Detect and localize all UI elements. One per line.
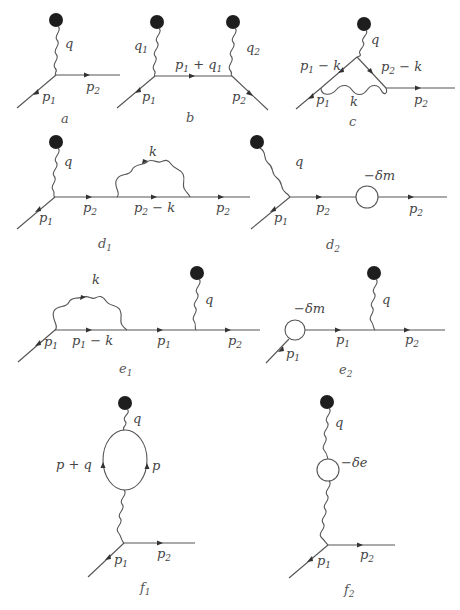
arrow-icon — [218, 195, 224, 200]
arrow-icon — [225, 328, 231, 333]
arrow-icon — [84, 73, 90, 78]
mass-counterterm-circle — [285, 320, 305, 340]
label-p-plus-q: p + q — [56, 457, 92, 472]
label-q: q — [371, 32, 379, 47]
label-q: q — [295, 154, 303, 169]
caption-a: a — [61, 111, 69, 126]
arrow-icon — [151, 195, 157, 200]
label-p1-b: p1 — [336, 332, 350, 349]
label-p2: p2 — [86, 79, 100, 96]
caption-d2: d2 — [326, 237, 340, 254]
arrow-icon — [308, 93, 314, 99]
arrow-icon — [35, 340, 41, 346]
fermion-loop — [103, 430, 147, 490]
arrow-icon — [307, 556, 313, 562]
photon-loop-k — [53, 296, 127, 330]
arrow-icon — [145, 463, 150, 469]
label-p2-minus-k: p2 − k — [381, 59, 422, 76]
label-p1: p1 — [42, 89, 56, 106]
arrow-icon — [33, 89, 39, 95]
diagram-c: q p1 − k p2 − k p1 k p2 c — [296, 17, 455, 129]
label-q2: q2 — [246, 40, 260, 57]
label-q: q — [205, 292, 213, 307]
external-source-blob — [367, 266, 381, 280]
label-p1: p1 — [39, 210, 53, 227]
photon-line-q — [323, 408, 330, 459]
label-p2: p2 — [157, 546, 171, 563]
label-q: q — [382, 292, 390, 307]
label-p2: p2 — [414, 92, 428, 109]
mass-counterterm-circle — [356, 186, 378, 208]
arrow-icon — [415, 86, 421, 91]
label-p1: p1 — [44, 334, 58, 351]
external-source-blob-2 — [226, 15, 240, 29]
label-p2-b: p2 — [216, 200, 230, 217]
label-p1-minus-k: p1 − k — [72, 333, 113, 350]
label-minus-delta-m: −δm — [364, 168, 395, 183]
external-source-blob — [250, 135, 264, 149]
label-p2-minus-k: p2 − k — [134, 200, 175, 217]
caption-e2: e2 — [339, 362, 353, 379]
diagram-e1: k q p1 p1 − k p1 p2 e1 — [18, 266, 260, 378]
diagram-a: q p1 p2 a — [17, 13, 120, 126]
external-source-blob — [190, 266, 204, 280]
external-source-blob — [357, 17, 371, 31]
external-source-blob-1 — [150, 15, 164, 29]
caption-c: c — [349, 114, 357, 129]
photon-line-q — [357, 30, 367, 57]
label-q: q — [133, 411, 141, 426]
label-p1: p1 — [114, 552, 128, 569]
diagram-d1: q k p1 p2 p2 − k p2 d1 — [17, 135, 250, 253]
diagram-e2: −δm q p1 p1 p2 e2 — [266, 266, 445, 379]
label-k: k — [149, 144, 157, 159]
arrow-icon — [101, 462, 106, 468]
feynman-diagram-figure: q p1 p2 a q1 q2 p1 + q1 p1 p2 b q — [0, 0, 460, 610]
photon-line-q — [54, 26, 59, 75]
label-q: q — [64, 154, 72, 169]
photon-line-q1 — [153, 28, 160, 76]
caption-b: b — [186, 110, 194, 125]
arrow-icon — [189, 74, 195, 79]
photon-loop-k — [116, 160, 190, 197]
diagram-f1: q p + q p p1 p2 f1 — [56, 396, 195, 597]
label-p2: p2 — [360, 547, 374, 564]
photon-line-q — [52, 148, 59, 197]
label-k: k — [92, 272, 100, 287]
external-source-blob — [49, 135, 63, 149]
arrow-icon — [157, 541, 163, 546]
label-p1: p1 — [142, 89, 156, 106]
diagram-d2: q −δm p1 p2 p2 d2 — [250, 135, 447, 254]
label-p1-b: p1 — [157, 333, 171, 350]
label-p1: p1 — [317, 553, 331, 570]
label-p2-a: p2 — [83, 200, 97, 217]
arrow-icon — [105, 554, 111, 560]
photon-line-q — [260, 148, 290, 197]
external-source-blob — [118, 396, 132, 410]
label-k: k — [350, 94, 358, 109]
label-p2: p2 — [228, 333, 242, 350]
label-minus-delta-m: −δm — [294, 301, 325, 316]
arrow-icon — [80, 295, 86, 300]
label-p2: p2 — [405, 332, 419, 349]
photon-line-internal — [320, 481, 330, 545]
photon-line-q — [193, 279, 200, 330]
caption-f2: f2 — [343, 582, 355, 599]
label-p: p — [152, 458, 161, 473]
label-minus-delta-e: −δe — [341, 455, 368, 470]
label-p1: p1 — [274, 210, 288, 227]
caption-f1: f1 — [139, 580, 151, 597]
external-source-blob — [49, 13, 63, 27]
arrow-icon — [86, 328, 92, 333]
label-q1: q1 — [134, 38, 148, 55]
arrow-icon — [157, 328, 163, 333]
label-q: q — [335, 415, 343, 430]
label-p1: p1 — [286, 346, 300, 363]
label-p2-a: p2 — [316, 200, 330, 217]
arrow-icon — [408, 195, 414, 200]
label-p2-b: p2 — [409, 201, 423, 218]
charge-counterterm-circle — [317, 459, 339, 481]
photon-line-q — [123, 409, 128, 430]
photon-line-q2 — [229, 28, 236, 76]
label-p1-minus-k: p1 − k — [300, 58, 341, 75]
diagram-b: q1 q2 p1 + q1 p1 p2 b — [117, 15, 268, 125]
